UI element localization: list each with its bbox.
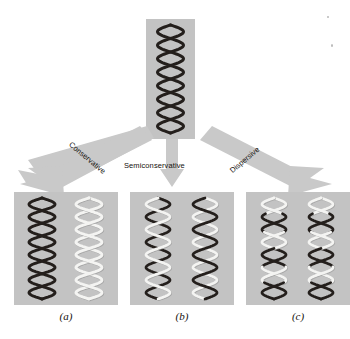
scan-speck bbox=[331, 44, 333, 47]
parent-dna-panel bbox=[146, 19, 195, 139]
result-panel-semiconservative bbox=[130, 192, 234, 305]
caption-b: (b) bbox=[162, 310, 202, 322]
conservative-duplexes bbox=[14, 192, 118, 305]
result-panel-conservative bbox=[14, 192, 118, 305]
semiconservative-duplexes bbox=[130, 192, 234, 305]
caption-c: (c) bbox=[278, 310, 318, 322]
dispersive-duplexes bbox=[246, 192, 350, 305]
result-panel-dispersive bbox=[246, 192, 350, 305]
arrow-label-semiconservative: Semiconservative bbox=[124, 161, 185, 170]
figure-canvas: Conservative Semiconservative Dispersive… bbox=[0, 0, 350, 339]
parent-dna-helix bbox=[146, 19, 195, 139]
caption-a: (a) bbox=[46, 310, 86, 322]
arrow-dispersive bbox=[196, 126, 336, 196]
scan-speck bbox=[327, 16, 329, 18]
